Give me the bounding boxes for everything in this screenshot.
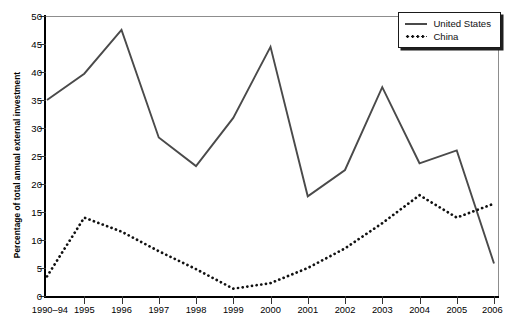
x-tick-1998 — [196, 296, 197, 304]
x-tick-label-2004: 2004 — [409, 305, 430, 315]
y-tick-label-15: 15 — [31, 207, 42, 218]
x-tick-label-2002: 2002 — [335, 305, 356, 315]
y-tick-label-40: 40 — [31, 67, 42, 78]
x-tick-label-1996: 1996 — [111, 305, 132, 315]
x-tick-2002 — [345, 296, 346, 304]
y-tick-label-10: 10 — [31, 235, 42, 246]
legend-label-china: China — [433, 31, 458, 42]
x-tick-label-2003: 2003 — [372, 305, 393, 315]
x-tick-label-2006: 2006 — [482, 305, 503, 315]
x-tick-label-1995: 1995 — [74, 305, 95, 315]
series-lines — [46, 16, 499, 296]
x-tick-label-1997: 1997 — [148, 305, 169, 315]
legend-item-china: China — [405, 30, 491, 43]
chart-figure: Percentage of total annual external inve… — [0, 0, 515, 328]
y-axis-title: Percentage of total annual external inve… — [12, 30, 22, 300]
x-tick-label-2001: 2001 — [297, 305, 318, 315]
dotted-line-swatch — [405, 31, 427, 42]
x-tick-2003 — [382, 296, 383, 304]
y-tick-label-25: 25 — [31, 151, 42, 162]
y-tick-label-30: 30 — [31, 123, 42, 134]
x-tick-1997 — [159, 296, 160, 304]
x-tick-2000 — [271, 296, 272, 304]
x-tick-label-1998: 1998 — [186, 305, 207, 315]
x-tick-label-2005: 2005 — [446, 305, 467, 315]
y-tick-label-45: 45 — [31, 39, 42, 50]
x-tick-1999 — [233, 296, 234, 304]
x-tick-1995 — [84, 296, 85, 304]
y-tick-label-35: 35 — [31, 95, 42, 106]
legend-item-united-states: United States — [405, 17, 491, 30]
x-tick-label-2000: 2000 — [260, 305, 281, 315]
x-tick-label-1990–94: 1990–94 — [32, 305, 68, 315]
x-tick-label-1999: 1999 — [223, 305, 244, 315]
y-tick-label-0: 0 — [37, 291, 42, 302]
y-tick-label-50: 50 — [31, 11, 42, 22]
solid-line-swatch — [405, 18, 427, 29]
series-line-china — [47, 195, 494, 289]
chart-legend: United States China — [398, 12, 501, 48]
x-tick-2006 — [494, 296, 495, 304]
x-tick-2004 — [420, 296, 421, 304]
legend-label-united-states: United States — [433, 18, 491, 29]
y-tick-label-5: 5 — [37, 263, 42, 274]
y-tick-label-20: 20 — [31, 179, 42, 190]
x-tick-2001 — [308, 296, 309, 304]
plot-area: 05101520253035404550 1990–94199519961997… — [46, 16, 499, 296]
x-tick-2005 — [457, 296, 458, 304]
plot-frame-right — [498, 16, 499, 296]
series-line-united-states — [47, 30, 494, 264]
x-tick-1996 — [122, 296, 123, 304]
